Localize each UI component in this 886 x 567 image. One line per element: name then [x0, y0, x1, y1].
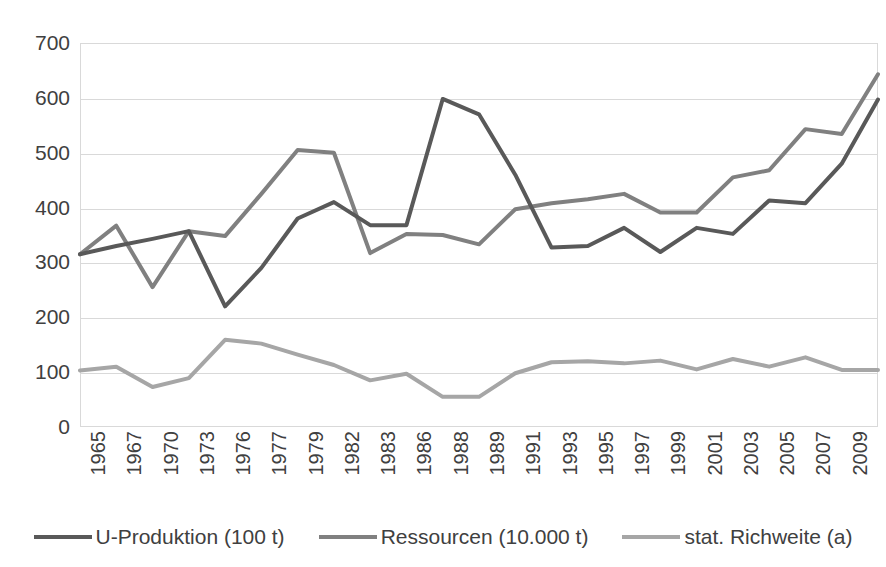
legend-item[interactable]: Ressourcen (10.000 t) [319, 526, 589, 548]
y-tick-label: 0 [0, 416, 70, 437]
x-tick-label: 2007 [813, 431, 833, 476]
x-tick-label: 1999 [668, 431, 688, 476]
legend-line-icon [34, 535, 92, 539]
legend-label: U-Produktion (100 t) [96, 526, 285, 548]
x-tick-label: 1970 [161, 431, 181, 476]
x-tick-label: 2009 [850, 431, 870, 476]
legend-item[interactable]: stat. Richweite (a) [622, 526, 852, 548]
y-tick-label: 700 [0, 32, 70, 53]
y-tick-label: 500 [0, 142, 70, 163]
y-axis: 7006005004003002001000 [0, 0, 70, 470]
x-tick-label: 1989 [487, 431, 507, 476]
x-tick-label: 1993 [560, 431, 580, 476]
x-tick-label: 1979 [306, 431, 326, 476]
x-tick-label: 1965 [88, 431, 108, 476]
x-tick-label: 2001 [705, 431, 725, 476]
x-tick-label: 1991 [523, 431, 543, 476]
y-tick-label: 200 [0, 306, 70, 327]
x-tick-label: 1977 [269, 431, 289, 476]
chart-legend: U-Produktion (100 t)Ressourcen (10.000 t… [0, 520, 886, 554]
x-tick-label: 2003 [741, 431, 761, 476]
x-axis: 1965196719701973197619771979198219831986… [80, 431, 878, 511]
y-tick-label: 600 [0, 87, 70, 108]
y-tick-label: 400 [0, 197, 70, 218]
x-tick-label: 1967 [124, 431, 144, 476]
series-line [80, 99, 878, 306]
x-tick-label: 2005 [777, 431, 797, 476]
legend-label: Ressourcen (10.000 t) [381, 526, 589, 548]
x-tick-label: 1986 [414, 431, 434, 476]
series-layer [80, 43, 878, 427]
x-tick-label: 1973 [197, 431, 217, 476]
legend-line-icon [319, 535, 377, 539]
line-chart: 7006005004003002001000 19651967197019731… [0, 0, 886, 567]
y-tick-label: 300 [0, 251, 70, 272]
x-tick-label: 1976 [233, 431, 253, 476]
x-tick-label: 1988 [451, 431, 471, 476]
x-tick-label: 1982 [342, 431, 362, 476]
legend-line-icon [622, 535, 680, 539]
x-tick-label: 1997 [632, 431, 652, 476]
x-tick-label: 1983 [378, 431, 398, 476]
series-line [80, 340, 878, 397]
y-tick-label: 100 [0, 361, 70, 382]
x-tick-label: 1995 [596, 431, 616, 476]
legend-label: stat. Richweite (a) [684, 526, 852, 548]
legend-item[interactable]: U-Produktion (100 t) [34, 526, 285, 548]
